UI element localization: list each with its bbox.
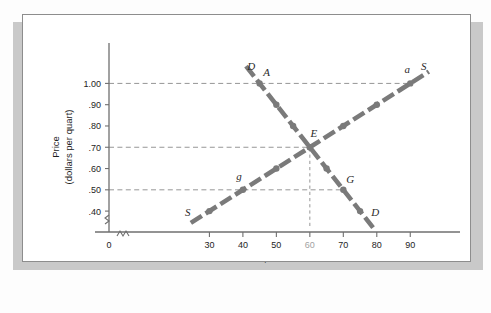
data-point-demand-2	[290, 123, 296, 129]
x-tick-label-6: 80	[372, 240, 382, 250]
annotation-s-bottom: S	[185, 206, 191, 218]
annotation-g: G	[346, 173, 354, 185]
y-axis-subtitle: (dollars per quart)	[63, 110, 74, 185]
data-point-supply-3	[307, 144, 313, 150]
annotation-g: g	[236, 170, 242, 182]
y-tick-label-1: .90	[88, 100, 101, 110]
data-point-supply-5	[374, 101, 380, 107]
figure-frame: 1.00.90.80.70.60.50.40030405060708090AEG…	[22, 14, 471, 262]
data-point-demand-1	[273, 101, 279, 107]
data-point-demand-4	[323, 165, 329, 171]
x-tick-label-4: 60	[305, 240, 315, 250]
data-point-supply-2	[273, 165, 279, 171]
y-axis-title: Price	[50, 136, 61, 158]
annotation-a: A	[262, 66, 270, 78]
data-point-demand-0	[256, 80, 262, 86]
y-tick-label-6: .40	[88, 207, 101, 217]
data-point-supply-4	[340, 123, 346, 129]
y-tick-label-5: .50	[88, 185, 101, 195]
annotation-d-bottom: D	[370, 206, 379, 218]
supply-demand-chart: 1.00.90.80.70.60.50.40030405060708090AEG…	[23, 15, 472, 263]
x-axis-title: Quantity	[238, 260, 274, 263]
x-tick-label-5: 70	[338, 240, 348, 250]
y-tick-label-3: .70	[88, 143, 101, 153]
x-tick-label-3: 50	[271, 240, 281, 250]
annotation-d-top: D	[246, 60, 255, 72]
data-point-demand-6	[357, 208, 363, 214]
x-tick-label-7: 90	[405, 240, 415, 250]
data-point-supply-1	[240, 187, 246, 193]
data-point-demand-5	[340, 187, 346, 193]
annotation-a: a	[405, 63, 411, 75]
data-point-supply-6	[407, 80, 413, 86]
chart-canvas: 1.00.90.80.70.60.50.40030405060708090AEG…	[23, 15, 472, 263]
x-tick-label-2: 40	[238, 240, 248, 250]
data-point-supply-0	[206, 208, 212, 214]
y-tick-label-2: .80	[88, 121, 101, 131]
x-tick-label-1: 30	[204, 240, 214, 250]
x-tick-label-0: 0	[106, 240, 111, 250]
y-tick-label-4: .60	[88, 164, 101, 174]
annotation-e: E	[309, 127, 317, 139]
y-tick-label-0: 1.00	[83, 79, 101, 89]
annotation-s-top: S	[421, 60, 427, 72]
